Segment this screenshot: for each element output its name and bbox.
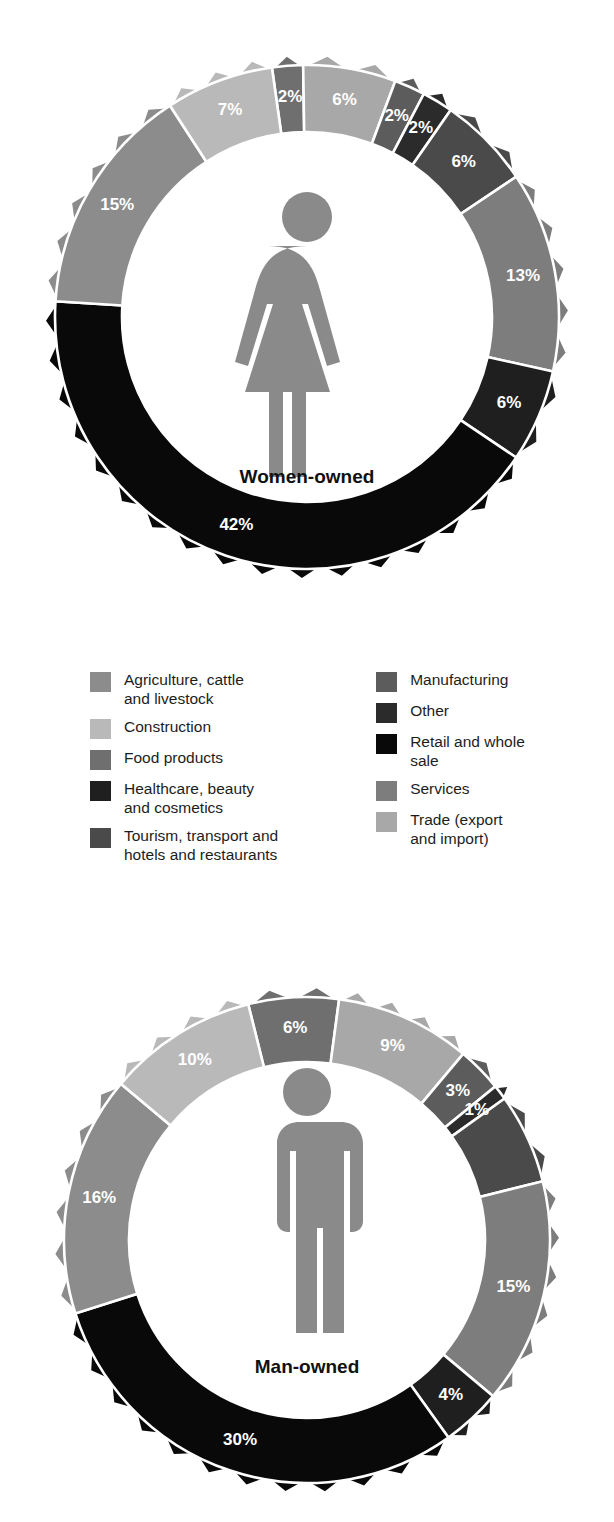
legend-item[interactable]: Agriculture, cattle and livestock: [90, 670, 374, 708]
legend-swatch-manufacturing: [376, 672, 397, 692]
legend-item-label: Construction: [124, 717, 211, 736]
women-donut-svg: 2%6%2%2%6%13%6%42%15%7% Women-owned: [0, 0, 614, 640]
slice-value-label: 2%: [278, 87, 303, 106]
legend-swatch-food-products: [90, 750, 111, 770]
legend-item[interactable]: Tourism, transport and hotels and restau…: [90, 826, 374, 864]
donut-slice[interactable]: [64, 1084, 171, 1314]
legend-item-label: Retail and whole sale: [410, 732, 525, 770]
legend-swatch-tourism: [90, 828, 111, 848]
legend-item[interactable]: Construction: [90, 717, 374, 739]
legend-item[interactable]: Trade (export and import): [376, 810, 594, 848]
legend-item-label: Other: [410, 701, 449, 720]
slice-value-label: 6%: [332, 90, 357, 109]
legend-swatch-trade: [376, 812, 397, 832]
legend-swatch-construction: [90, 719, 111, 739]
legend-item-label: Agriculture, cattle and livestock: [124, 670, 244, 708]
donut-slice[interactable]: [75, 1294, 448, 1483]
slice-value-label: 2%: [409, 118, 434, 137]
slice-value-label: 1%: [465, 1100, 490, 1119]
slice-value-label: 15%: [100, 195, 134, 214]
slice-value-label: 4%: [439, 1385, 464, 1404]
slice-value-label: 13%: [506, 266, 540, 285]
legend-column-left: Agriculture, cattle and livestockConstru…: [90, 670, 374, 873]
legend-item-label: Tourism, transport and hotels and restau…: [124, 826, 278, 864]
slice-value-label: 15%: [496, 1277, 530, 1296]
legend-item[interactable]: Food products: [90, 748, 374, 770]
men-center-caption: Man-owned: [255, 1356, 360, 1377]
legend-item-label: Food products: [124, 748, 223, 767]
legend-swatch-other: [376, 703, 397, 723]
legend-item-label: Healthcare, beauty and cosmetics: [124, 779, 254, 817]
legend-item[interactable]: Other: [376, 701, 594, 723]
slice-value-label: 30%: [223, 1430, 257, 1449]
legend-item-label: Trade (export and import): [410, 810, 502, 848]
male-figure-icon: [273, 1068, 363, 1333]
legend-swatch-services: [376, 781, 397, 801]
women-owned-donut-chart: 2%6%2%2%6%13%6%42%15%7% Women-owned: [0, 0, 614, 640]
slice-value-label: 42%: [219, 515, 253, 534]
legend-item[interactable]: Services: [376, 779, 594, 801]
legend-item[interactable]: Retail and whole sale: [376, 732, 594, 770]
female-figure-icon: [235, 192, 340, 477]
legend-item[interactable]: Manufacturing: [376, 670, 594, 692]
slice-value-label: 16%: [82, 1188, 116, 1207]
legend-swatch-retail: [376, 734, 397, 754]
slice-value-label: 10%: [178, 1050, 212, 1069]
slice-value-label: 6%: [283, 1018, 308, 1037]
slice-value-label: 2%: [384, 106, 409, 125]
legend-item[interactable]: Healthcare, beauty and cosmetics: [90, 779, 374, 817]
legend-swatch-healthcare: [90, 781, 111, 801]
slice-value-label: 3%: [446, 1081, 471, 1100]
chart-legend: Agriculture, cattle and livestockConstru…: [0, 640, 614, 950]
women-slices: [46, 57, 568, 578]
slice-value-label: 9%: [380, 1036, 405, 1055]
slice-value-label: 7%: [218, 100, 243, 119]
women-center-caption: Women-owned: [240, 466, 375, 487]
legend-swatch-agriculture: [90, 672, 111, 692]
legend-item-label: Services: [410, 779, 469, 798]
slice-value-label: 6%: [497, 393, 522, 412]
legend-column-right: ManufacturingOtherRetail and whole saleS…: [376, 670, 594, 857]
man-owned-donut-chart: 6%9%3%1%15%4%30%16%10% Man-owned: [0, 950, 614, 1522]
slice-value-label: 6%: [451, 152, 476, 171]
legend-item-label: Manufacturing: [410, 670, 508, 689]
men-donut-svg: 6%9%3%1%15%4%30%16%10% Man-owned: [0, 950, 614, 1522]
